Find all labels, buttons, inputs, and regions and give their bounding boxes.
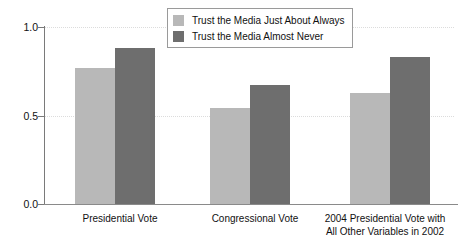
x-tick-label-2004-line1: 2004 Presidential Vote with (315, 213, 455, 225)
bar-2004-presidential-trust-always (350, 93, 390, 205)
legend-item-trust-always: Trust the Media Just About Always (173, 13, 344, 27)
y-tick-label-0: 0.0 (12, 199, 38, 209)
legend-label-trust-never: Trust the Media Almost Never (192, 31, 323, 42)
bar-presidential-trust-never (115, 48, 155, 204)
legend-label-trust-always: Trust the Media Just About Always (192, 15, 344, 26)
y-axis-tick-labels: 1.0 0.5 0.0 (6, 0, 38, 246)
legend: Trust the Media Just About Always Trust … (167, 8, 353, 48)
legend-swatch-icon-trust-always (173, 15, 184, 26)
legend-swatch-icon-trust-never (173, 31, 184, 42)
bar-2004-presidential-trust-never (390, 57, 430, 204)
x-tick-label-presidential: Presidential Vote (55, 213, 185, 225)
bar-chart: Effect of Party Identification on Vote C… (0, 0, 460, 246)
x-tick-label-congressional: Congressional Vote (190, 213, 320, 225)
legend-item-trust-never: Trust the Media Almost Never (173, 29, 344, 43)
y-tick-label-0-5: 0.5 (12, 111, 38, 121)
x-tick-label-2004-line2: All Other Variables in 2002 (315, 226, 455, 238)
bar-congressional-trust-always (210, 108, 250, 204)
bar-congressional-trust-never (250, 85, 290, 204)
bar-presidential-trust-always (75, 68, 115, 204)
plot-area (44, 27, 454, 204)
x-axis-baseline (44, 204, 458, 205)
y-tick-label-1: 1.0 (12, 22, 38, 32)
